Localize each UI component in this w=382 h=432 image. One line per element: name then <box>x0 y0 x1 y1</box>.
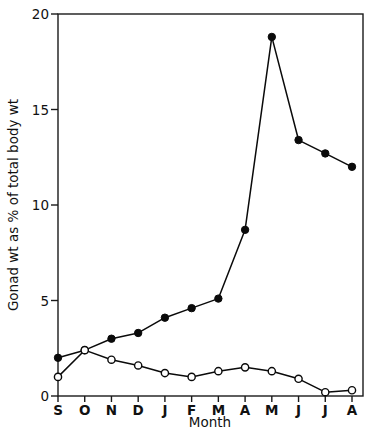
data-point-0-8 <box>268 33 275 40</box>
y-tick-label-20: 20 <box>32 6 49 22</box>
data-point-1-0 <box>54 373 61 380</box>
x-tick-label-3: D <box>133 402 144 418</box>
x-tick-label-11: A <box>347 402 358 418</box>
data-point-1-5 <box>188 373 195 380</box>
data-point-0-6 <box>215 295 222 302</box>
data-point-1-7 <box>241 364 248 371</box>
data-point-0-11 <box>348 163 355 170</box>
x-tick-label-2: N <box>106 402 117 418</box>
series-line-0 <box>58 37 352 358</box>
data-point-1-1 <box>81 347 88 354</box>
line-chart: 20 15 10 5 0 SONDJFMAMJJA Month Gonad wt… <box>0 0 382 432</box>
series-open-circle-series <box>54 347 355 396</box>
series-filled-circle-series <box>54 33 355 361</box>
data-point-1-4 <box>161 369 168 376</box>
y-tick-label-5: 5 <box>40 293 49 309</box>
data-point-1-3 <box>135 362 142 369</box>
y-tick-label-10: 10 <box>32 197 49 213</box>
data-point-1-8 <box>268 368 275 375</box>
data-point-0-4 <box>161 314 168 321</box>
data-point-0-5 <box>188 304 195 311</box>
y-tick-label-15: 15 <box>32 102 49 118</box>
y-axis-ticks <box>51 14 58 396</box>
x-axis-title: Month <box>189 414 231 430</box>
y-axis-title: Gonad wt as % of total body wt <box>5 99 21 311</box>
data-point-0-2 <box>108 335 115 342</box>
data-point-1-9 <box>295 375 302 382</box>
data-point-1-6 <box>215 368 222 375</box>
x-tick-label-9: J <box>295 402 301 418</box>
data-point-0-10 <box>322 150 329 157</box>
data-series-layer <box>54 33 355 396</box>
x-tick-label-8: M <box>265 402 278 418</box>
x-tick-label-7: A <box>240 402 251 418</box>
data-point-0-9 <box>295 136 302 143</box>
series-line-1 <box>58 350 352 392</box>
data-point-1-2 <box>108 356 115 363</box>
data-point-0-7 <box>241 226 248 233</box>
data-point-0-3 <box>134 329 141 336</box>
x-tick-label-10: J <box>322 402 328 418</box>
y-axis-tick-labels: 20 15 10 5 0 <box>32 6 49 404</box>
data-point-0-0 <box>54 354 61 361</box>
x-tick-label-1: O <box>79 402 90 418</box>
data-point-1-10 <box>322 389 329 396</box>
x-tick-label-4: J <box>161 402 167 418</box>
plot-frame <box>58 14 363 396</box>
x-axis-ticks <box>58 396 352 402</box>
y-tick-label-0: 0 <box>40 388 49 404</box>
x-tick-label-0: S <box>53 402 63 418</box>
data-point-1-11 <box>348 387 355 394</box>
chart-figure: 20 15 10 5 0 SONDJFMAMJJA Month Gonad wt… <box>0 0 382 432</box>
